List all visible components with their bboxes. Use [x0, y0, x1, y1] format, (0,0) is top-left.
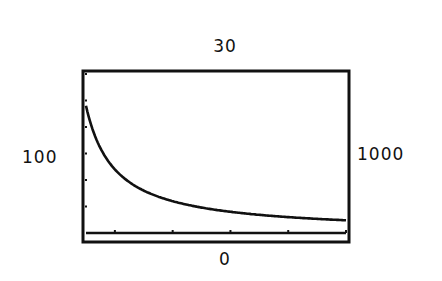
y-tick-marks [85, 73, 87, 208]
graph-screen [0, 0, 442, 281]
x-axis [86, 230, 346, 233]
graph-frame [83, 71, 349, 242]
plot-curve [86, 106, 346, 221]
